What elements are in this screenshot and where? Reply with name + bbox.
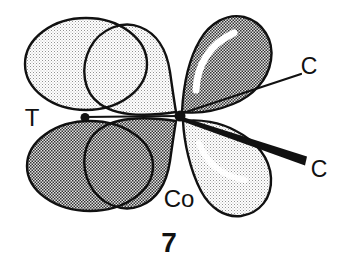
label-carbonyl-upper: C (301, 53, 318, 79)
label-carbonyl-lower: C (311, 156, 328, 182)
figure-7-orbital-diagram: T Co C C 7 (0, 0, 346, 258)
label-metal-center: Co (164, 185, 195, 212)
label-trans-ligand: T (25, 104, 40, 131)
orbital-diagram-canvas: T Co C C 7 (0, 0, 346, 258)
orbital-lobe-bottom-left-group (27, 118, 176, 211)
atom-dot-cobalt (175, 111, 186, 122)
atom-dot-t-bond (81, 113, 90, 122)
bond-t-to-cobalt (84, 116, 179, 117)
figure-number: 7 (161, 227, 177, 258)
orbital-lobe-top-left-group (25, 18, 176, 115)
